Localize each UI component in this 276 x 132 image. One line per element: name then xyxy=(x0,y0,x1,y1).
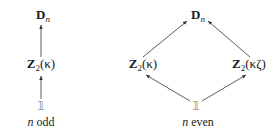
z-argument: (κ) xyxy=(142,56,157,71)
node-odd-trivial-group: 𝟙 xyxy=(37,99,45,113)
z-argument: (κζ) xyxy=(245,56,266,71)
node-even-trivial-group: 𝟙 xyxy=(192,99,200,113)
node-even-z2-kappa: Z2(κ) xyxy=(129,57,157,75)
z-label: Z xyxy=(129,56,138,71)
node-odd-z2-kappa: Z2(κ) xyxy=(27,57,55,75)
arrow-even-one-to-z2kz xyxy=(202,75,246,101)
caption-text: odd xyxy=(34,115,55,129)
z-label: Z xyxy=(232,56,241,71)
arrow-even-z2k-to-dn xyxy=(143,21,187,57)
dn-label: D xyxy=(191,7,200,22)
dn-subscript: n xyxy=(200,14,205,24)
arrow-even-z2kz-to-dn xyxy=(208,21,250,57)
caption-n-odd: n odd xyxy=(28,115,55,130)
node-odd-dn: Dn xyxy=(36,8,50,26)
arrow-even-one-to-z2k xyxy=(146,75,190,101)
dn-subscript: n xyxy=(45,14,50,24)
node-even-dn: Dn xyxy=(191,8,205,26)
caption-n-even: n even xyxy=(182,115,214,130)
node-even-z2-kappa-zeta: Z2(κζ) xyxy=(232,57,266,75)
z-label: Z xyxy=(27,56,36,71)
caption-text: even xyxy=(188,115,214,129)
z-argument: (κ) xyxy=(40,56,55,71)
dn-label: D xyxy=(36,7,45,22)
